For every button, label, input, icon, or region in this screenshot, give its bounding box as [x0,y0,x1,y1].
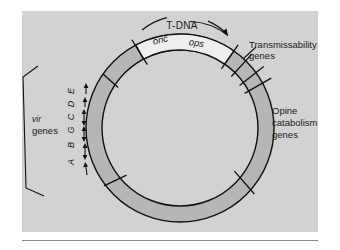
tdna-arrowhead-icon [223,29,229,36]
vir-gene-letter-C: C [66,113,76,120]
transmissability-label-line1: Transmissability [249,39,317,50]
vir-gene-letter-D: D [66,100,76,107]
plasmid-diagram: onc ops T-DNA Transmissability genes Opi… [0,0,340,250]
vir-gene-letter-B: B [66,142,76,148]
vir-arrowhead-A-icon [83,162,88,167]
vir-arrowhead-B-down-icon [83,155,88,160]
vir-arrowhead-E-icon [84,83,89,88]
opine-label-line1: Opine [272,105,297,116]
vir-gene-letter-E: E [66,87,76,94]
vir-arrowhead-C-up-icon [82,109,87,114]
vir-arrowhead-D-icon [83,97,88,102]
figure-page: onc ops T-DNA Transmissability genes Opi… [0,0,340,250]
opine-label-line3: genes [272,129,298,140]
opine-label-line2: catabolism [272,117,317,128]
vir-label-line2: genes [32,125,58,136]
vir-label-line1: vir [32,114,42,124]
transmissability-label-line2: genes [249,50,275,61]
vir-gene-letter-G: G [66,126,76,133]
ops-label: ops [188,36,205,49]
tdna-label: T-DNA [166,20,198,31]
bottom-rule-divider [22,240,318,241]
vir-gene-letter-A: A [66,159,76,166]
vir-arrowhead-G-down-icon [82,137,87,142]
